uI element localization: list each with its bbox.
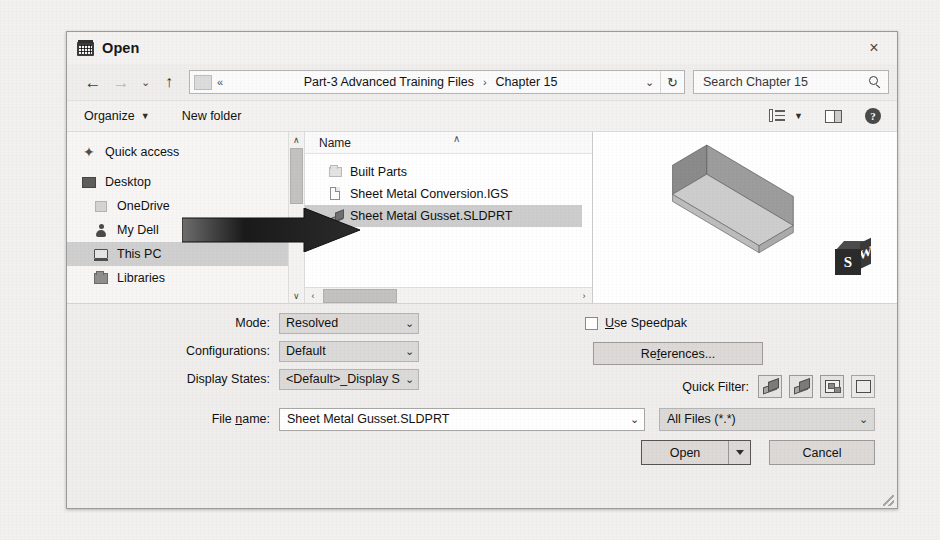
new-folder-button[interactable]: New folder	[179, 104, 245, 128]
search-input[interactable]: Search Chapter 15	[693, 70, 889, 94]
mode-label: Mode:	[67, 316, 279, 330]
scroll-down-icon[interactable]: ∨	[289, 288, 304, 303]
list-item-label: Sheet Metal Gusset.SLDPRT	[350, 209, 512, 223]
navigation-bar: ← → ⌄ ↑ « Part-3 Advanced Training Files…	[67, 64, 897, 100]
configurations-row: Configurations: Default ⌄	[67, 340, 897, 362]
display-states-select[interactable]: <Default>_Display St ⌄	[279, 369, 419, 390]
sidebar-item-label: Desktop	[105, 175, 151, 189]
use-speedpak-label: Use Speedpak	[605, 316, 687, 330]
close-icon[interactable]: ×	[851, 32, 897, 63]
view-layout-icon	[769, 109, 786, 123]
search-icon	[869, 76, 882, 89]
logo-letter-s: S	[835, 249, 861, 275]
sidebar-item-label: This PC	[117, 247, 161, 261]
breadcrumb-separator: ›	[483, 76, 487, 88]
breadcrumb-item-1[interactable]: Chapter 15	[496, 75, 558, 89]
breadcrumb: Part-3 Advanced Training Files › Chapter…	[223, 75, 638, 89]
scroll-left-icon[interactable]: ‹	[305, 288, 321, 304]
recent-locations-button[interactable]: ⌄	[135, 69, 155, 95]
list-item-label: Built Parts	[350, 165, 407, 179]
folder-icon	[329, 165, 343, 179]
list-item[interactable]: Built Parts	[305, 161, 592, 183]
filter-assemblies-icon[interactable]	[789, 375, 813, 398]
scrollbar-track[interactable]	[321, 288, 576, 304]
scroll-up-icon[interactable]: ∧	[289, 132, 304, 147]
configurations-value: Default	[286, 344, 400, 358]
solidworks-logo-icon: W S	[833, 239, 873, 279]
search-input-text: Search Chapter 15	[703, 75, 869, 89]
column-header-name[interactable]: Name ∧	[305, 132, 592, 154]
checkbox-box[interactable]	[585, 317, 598, 330]
list-item[interactable]: Sheet Metal Conversion.IGS	[305, 183, 592, 205]
sidebar-item-label: Libraries	[117, 271, 165, 285]
command-bar: Organize ▼ New folder ▼ ?	[67, 100, 897, 132]
window-title: Open	[102, 40, 139, 56]
references-button[interactable]: References...	[593, 342, 763, 365]
help-icon: ?	[865, 108, 881, 124]
file-name-label: File name:	[67, 412, 279, 426]
options-section: Mode: Resolved ⌄ Configurations: Default…	[67, 304, 897, 402]
open-dialog: Open × ← → ⌄ ↑ « Part-3 Advanced Trainin…	[66, 31, 898, 509]
use-speedpak-checkbox[interactable]: Use Speedpak	[585, 316, 687, 330]
sort-ascending-icon: ∧	[453, 133, 460, 144]
quick-filter-label: Quick Filter:	[682, 380, 749, 394]
view-layout-button[interactable]	[764, 104, 792, 128]
title-bar: Open ×	[67, 32, 897, 64]
address-bar[interactable]: « Part-3 Advanced Training Files › Chapt…	[189, 70, 685, 94]
refresh-icon[interactable]: ↻	[660, 71, 684, 93]
file-type-select[interactable]: All Files (*.*) ⌄	[659, 408, 875, 431]
open-button[interactable]: Open	[641, 440, 751, 465]
back-button[interactable]: ←	[79, 69, 107, 95]
column-header-label: Name	[319, 136, 351, 150]
file-list-scrollbar[interactable]: ‹ ›	[305, 287, 592, 303]
filter-top-level-icon[interactable]	[851, 375, 875, 398]
forward-button[interactable]: →	[107, 69, 135, 95]
document-icon	[329, 187, 343, 201]
sidebar-item-label: Quick access	[105, 145, 179, 159]
file-name-input[interactable]: Sheet Metal Gusset.SLDPRT ⌄	[279, 408, 645, 431]
chevron-down-icon[interactable]: ⌄	[638, 71, 660, 93]
filter-drawings-icon[interactable]	[820, 375, 844, 398]
references-label: References...	[641, 347, 715, 361]
up-button[interactable]: ↑	[155, 69, 183, 95]
chevron-down-icon[interactable]: ⌄	[624, 413, 644, 426]
scrollbar-thumb[interactable]	[323, 289, 397, 303]
organize-menu[interactable]: Organize ▼	[81, 104, 153, 128]
sidebar-item-desktop[interactable]: Desktop	[67, 170, 304, 194]
configurations-label: Configurations:	[67, 344, 279, 358]
organize-label: Organize	[84, 109, 135, 123]
cancel-button[interactable]: Cancel	[769, 440, 875, 465]
chevron-down-icon: ⌄	[400, 373, 418, 386]
pointer-arrow-right	[182, 208, 360, 252]
view-chevron-down-icon[interactable]: ▼	[794, 111, 803, 121]
new-folder-label: New folder	[182, 109, 242, 123]
sidebar-item-libraries[interactable]: Libraries	[67, 266, 304, 290]
file-name-value: Sheet Metal Gusset.SLDPRT	[287, 412, 624, 426]
chevron-down-icon: ▼	[141, 111, 150, 121]
logo-letter-w: W	[860, 238, 871, 269]
open-label: Open	[642, 441, 728, 464]
help-button[interactable]: ?	[859, 104, 887, 128]
mode-row: Mode: Resolved ⌄	[67, 312, 897, 334]
chevron-down-icon	[736, 450, 744, 455]
user-icon	[93, 223, 109, 238]
resize-grip[interactable]	[883, 495, 894, 506]
command-bar-icons: ▼ ?	[764, 104, 887, 128]
filter-parts-icon[interactable]	[758, 375, 782, 398]
address-folder-icon	[194, 75, 212, 90]
window-app-icon	[77, 40, 94, 57]
open-dropdown-button[interactable]	[728, 441, 750, 464]
chevron-down-icon: ⌄	[852, 413, 874, 426]
configurations-select[interactable]: Default ⌄	[279, 341, 419, 362]
preview-pane-icon	[825, 110, 842, 123]
list-item-label: Sheet Metal Conversion.IGS	[350, 187, 508, 201]
preview-pane-button[interactable]	[819, 104, 847, 128]
action-buttons: Open Cancel	[67, 436, 897, 508]
cancel-label: Cancel	[803, 446, 842, 460]
sidebar-item-quick-access[interactable]: ✦ Quick access	[67, 140, 304, 164]
breadcrumb-item-0[interactable]: Part-3 Advanced Training Files	[304, 75, 474, 89]
pin-icon: ✦	[81, 145, 97, 160]
scrollbar-thumb[interactable]	[290, 148, 303, 204]
mode-select[interactable]: Resolved ⌄	[279, 313, 419, 334]
scroll-right-icon[interactable]: ›	[576, 288, 592, 304]
